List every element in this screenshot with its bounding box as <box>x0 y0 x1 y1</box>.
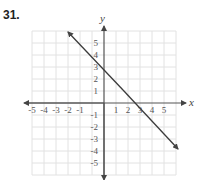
y-tick: 1 <box>94 86 99 96</box>
x-tick: 2 <box>126 105 131 115</box>
y-tick: -1 <box>91 110 99 120</box>
x-tick: -5 <box>28 105 36 115</box>
y-tick: -4 <box>91 146 99 156</box>
x-tick: 1 <box>114 105 119 115</box>
x-axis-label: x <box>188 96 194 108</box>
x-tick: -4 <box>40 105 48 115</box>
x-tick: -2 <box>64 105 72 115</box>
y-tick: 2 <box>94 74 99 84</box>
x-tick: 5 <box>162 105 167 115</box>
coordinate-plane: x y -5 -4 -3 -2 -1 1 2 3 4 5 5 4 3 2 1 -… <box>0 0 206 180</box>
x-tick: 4 <box>150 105 155 115</box>
y-tick: 5 <box>94 38 99 48</box>
x-tick: -1 <box>76 105 84 115</box>
plotted-line <box>123 90 178 149</box>
y-axis-label: y <box>99 12 105 24</box>
y-tick: -5 <box>91 158 99 168</box>
y-tick: 4 <box>94 50 99 60</box>
y-tick: -3 <box>91 134 99 144</box>
y-tick: -2 <box>91 122 99 132</box>
x-tick: -3 <box>52 105 60 115</box>
